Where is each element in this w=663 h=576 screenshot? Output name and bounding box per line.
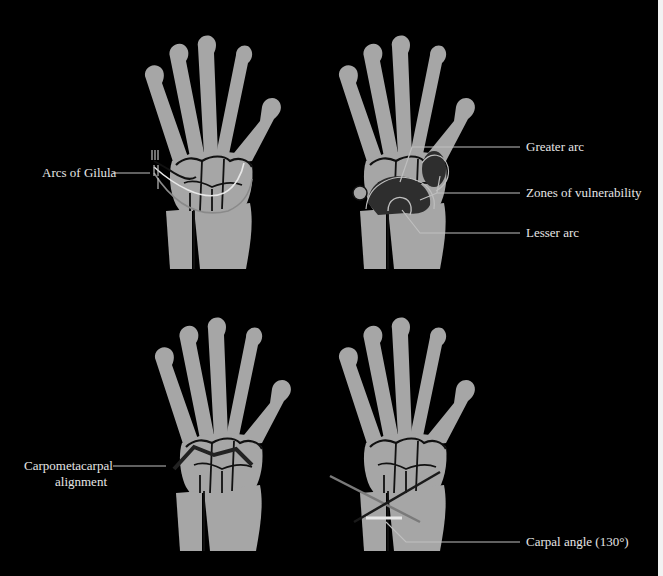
label-lesser-arc: Lesser arc bbox=[526, 225, 579, 240]
panel-top-left-hand bbox=[145, 36, 281, 269]
panel-top-right-hand bbox=[339, 36, 475, 269]
figure-canvas: Arcs of Gilula Greater arc Zones of vuln… bbox=[0, 0, 658, 576]
label-carpometacarpal: Carpometacarpal bbox=[24, 458, 107, 473]
label-greater-arc: Greater arc bbox=[526, 139, 584, 154]
page-edge-strip bbox=[658, 0, 663, 576]
label-zones-of-vulnerability: Zones of vulnerability bbox=[526, 185, 642, 200]
panel-bottom-left-hand bbox=[155, 318, 291, 551]
hand-diagrams bbox=[0, 0, 658, 576]
label-alignment: alignment bbox=[24, 474, 107, 489]
label-arcs-of-gilula: Arcs of Gilula bbox=[42, 165, 116, 180]
label-carpal-angle: Carpal angle (130°) bbox=[526, 534, 629, 549]
